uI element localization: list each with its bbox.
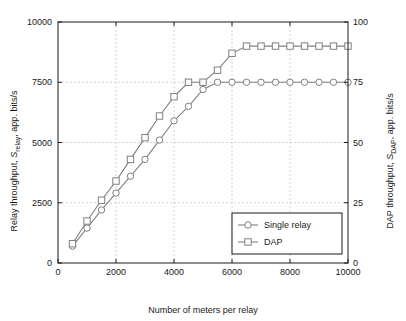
y-axis-label-right-subscript: DAP bbox=[390, 139, 397, 153]
y-axis-label-right: DAP throughput, SDAP, app. bits/s bbox=[385, 46, 397, 276]
ytick-right-100: 100 bbox=[353, 17, 393, 27]
xtick-6000: 6000 bbox=[222, 267, 242, 277]
y-axis-label-right-pre: DAP throughput, bbox=[385, 159, 395, 228]
xtick-0: 0 bbox=[55, 267, 60, 277]
ytick-left-10000: 10000 bbox=[10, 17, 52, 27]
y-axis-label-left: Relay throughput, Srelay, app. bits/s bbox=[9, 46, 21, 276]
y-axis-label-left-subscript: relay bbox=[14, 136, 21, 151]
y-axis-label-left-post: , app. bits/s bbox=[9, 90, 19, 136]
x-axis-label: Number of meters per relay bbox=[0, 305, 406, 315]
y-axis-label-right-symbol: S bbox=[385, 153, 395, 159]
legend-item-dap-label: DAP bbox=[264, 237, 283, 247]
y-axis-label-left-pre: Relay throughput, bbox=[9, 157, 19, 231]
xtick-4000: 4000 bbox=[164, 267, 184, 277]
y-axis-label-right-post: , app. bits/s bbox=[385, 93, 395, 139]
xtick-10000: 10000 bbox=[335, 267, 360, 277]
xtick-8000: 8000 bbox=[280, 267, 300, 277]
chart-figure: 0 2500 5000 7500 10000 0 25 50 75 100 0 … bbox=[0, 0, 406, 321]
xtick-2000: 2000 bbox=[106, 267, 126, 277]
legend-item-single-relay-label: Single relay bbox=[264, 220, 311, 230]
y-axis-label-left-symbol: S bbox=[9, 151, 19, 157]
